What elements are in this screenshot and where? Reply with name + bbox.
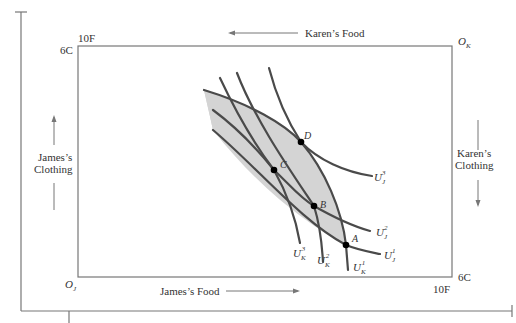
karen-origin-label: OK — [458, 35, 471, 50]
james-clothing-axis: James’s Clothing — [34, 115, 73, 210]
point-c — [271, 167, 278, 174]
label-uk3: UK3 — [293, 245, 306, 262]
karen-clothing-label-2: Clothing — [455, 159, 494, 171]
james-food-axis: James’s Food — [160, 285, 300, 297]
james-clothing-label-1: James’s — [38, 151, 72, 163]
karen-food-axis: Karen’s Food — [228, 27, 365, 39]
point-b-label: B — [320, 199, 326, 210]
label-uk1: UK1 — [353, 259, 366, 276]
bottom-right-food-label: 10F — [433, 283, 450, 295]
james-food-label: James’s Food — [160, 285, 220, 297]
point-b — [311, 203, 318, 210]
top-left-clothing-label: 6C — [60, 44, 73, 56]
right-arrow-icon — [293, 289, 300, 294]
top-left-food-label: 10F — [78, 32, 95, 44]
point-a-label: A — [351, 233, 359, 244]
up-arrow-icon — [52, 115, 57, 122]
james-origin-label: OJ — [65, 278, 77, 293]
point-d-label: D — [303, 130, 312, 141]
karen-food-label: Karen’s Food — [305, 27, 365, 39]
bottom-right-clothing-label: 6C — [458, 271, 471, 283]
james-clothing-label-2: Clothing — [34, 163, 73, 175]
label-uk2: UK2 — [317, 252, 330, 269]
label-uj2: UJ2 — [376, 224, 388, 241]
point-a — [343, 242, 350, 249]
edgeworth-box-diagram: A B C D UJ3 UJ2 UJ1 UK3 UK2 UK1 10F 6C 6… — [0, 0, 516, 323]
label-uj3: UJ3 — [374, 169, 386, 186]
left-arrow-icon — [228, 31, 235, 36]
karen-clothing-axis: Karen’s Clothing — [455, 120, 494, 207]
point-c-label: C — [280, 159, 287, 170]
down-arrow-icon — [476, 200, 481, 207]
karen-clothing-label-1: Karen’s — [457, 147, 491, 159]
label-uj1: UJ1 — [384, 247, 396, 264]
